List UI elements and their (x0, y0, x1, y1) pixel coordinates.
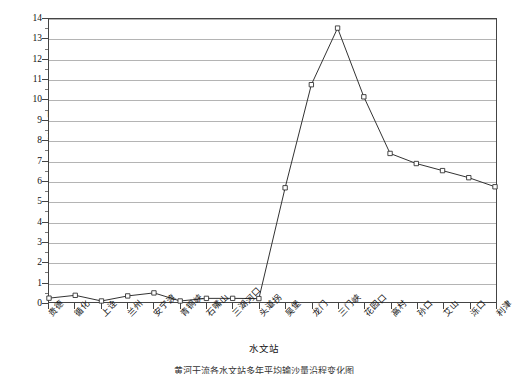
data-point-marker (283, 186, 287, 190)
data-point-marker (335, 26, 339, 30)
y-axis-tick-label: 14 (20, 13, 42, 23)
y-axis-tick-label: 0 (20, 298, 42, 308)
y-axis-tick-label: 9 (20, 115, 42, 125)
y-axis-tick-labels: 01234567891011121314 (18, 0, 42, 374)
plot-area (48, 18, 497, 303)
data-point-marker (47, 296, 51, 300)
data-point-marker (362, 95, 366, 99)
x-axis-title: 水文站 (0, 341, 527, 355)
y-axis-tick-label: 3 (20, 237, 42, 247)
y-axis-tick-label: 11 (20, 74, 42, 84)
data-point-marker (126, 294, 130, 298)
data-point-marker (152, 291, 156, 295)
figure-caption: 黄河干流各水文站多年平均输沙量沿程变化图 (0, 364, 527, 374)
y-axis-tick-label: 6 (20, 176, 42, 186)
series-line (49, 28, 495, 301)
y-axis-tick-label: 10 (20, 94, 42, 104)
y-axis-tick-label: 1 (20, 278, 42, 288)
y-axis-tick-label: 5 (20, 196, 42, 206)
data-point-marker (388, 151, 392, 155)
data-point-marker (204, 296, 208, 300)
data-point-marker (230, 296, 234, 300)
data-point-marker (414, 161, 418, 165)
y-axis-tick-label: 4 (20, 217, 42, 227)
data-series-sediment-discharge (49, 19, 496, 302)
data-point-marker (309, 83, 313, 87)
y-axis-tick-label: 8 (20, 135, 42, 145)
sediment-discharge-line-chart: 输沙量/10⁸t 01234567891011121314 贵德循化上诠兰州安宁… (0, 0, 527, 374)
y-axis-tick-label: 2 (20, 257, 42, 267)
data-point-marker (440, 168, 444, 172)
data-point-marker (493, 185, 497, 189)
data-point-marker (467, 175, 471, 179)
y-axis-tick-label: 13 (20, 33, 42, 43)
data-point-marker (73, 293, 77, 297)
y-axis-tick-label: 7 (20, 156, 42, 166)
y-axis-tick-label: 12 (20, 54, 42, 64)
